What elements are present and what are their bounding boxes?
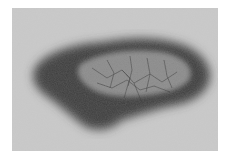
lesion-illustration (12, 8, 218, 151)
lesion-photo (12, 8, 218, 151)
